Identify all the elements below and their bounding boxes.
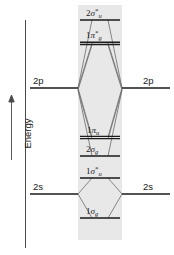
mo-label-1-pi-g-star: 1π*g bbox=[86, 31, 102, 40]
ao-label-left-2s: 2s bbox=[33, 182, 43, 192]
ao-label-right-2s: 2s bbox=[143, 182, 153, 192]
energy-axis-label: Energy bbox=[22, 99, 33, 169]
mo-label-1-sigma-u-star: 1σ*u bbox=[86, 167, 102, 176]
ao-label-right-2p: 2p bbox=[143, 76, 154, 86]
mo-energy-diagram: Energy 2p 2p 2s 2s 2σ*u 1π*g 1πu 2σg 1σ*… bbox=[0, 0, 174, 255]
mo-label-2-sigma-u-star: 2σ*u bbox=[86, 9, 102, 18]
mo-label-2-sigma-g: 2σg bbox=[86, 145, 98, 154]
energy-arrow-icon bbox=[9, 95, 14, 160]
ao-label-left-2p: 2p bbox=[33, 76, 44, 86]
mo-label-1-sigma-g: 1σg bbox=[86, 207, 98, 216]
mo-label-1-pi-u: 1πu bbox=[87, 126, 99, 135]
